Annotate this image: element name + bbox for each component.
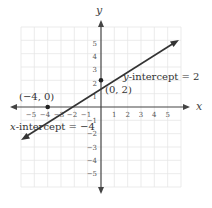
y-tick: 5: [93, 40, 97, 48]
y-tick: 3: [93, 66, 97, 74]
x-axis-right-arrow-icon: [183, 104, 190, 110]
x-tick: 4: [152, 111, 157, 119]
x-tick: −5: [26, 111, 36, 119]
y-tick-labels: 5 4 3 2 1 −1 −2 −3 −4 −5: [87, 40, 98, 178]
y-intercept-annotation: y-intercept = 2: [122, 71, 199, 82]
point-a-label: (−4, 0): [19, 91, 54, 102]
y-tick: −3: [87, 144, 97, 152]
x-tick: 5: [165, 111, 169, 119]
y-tick: −5: [87, 170, 97, 178]
x-tick: 2: [125, 111, 129, 119]
x-tick: 1: [112, 111, 116, 119]
y-axis-up-arrow-icon: [98, 20, 104, 27]
y-tick: −4: [87, 157, 98, 165]
x-axis-left-arrow-icon: [10, 104, 17, 110]
coordinate-plane: y x −5 −4 −3 −2 −1 1 2 3 4 5 5 4 3 2 1 −…: [0, 0, 212, 208]
y-axis-label: y: [95, 4, 103, 17]
point-b-label: (0, 2): [105, 84, 132, 95]
x-tick-labels: −5 −4 −3 −2 −1 1 2 3 4 5: [26, 111, 170, 119]
x-tick: −2: [67, 111, 77, 119]
line-upper-arrow-icon: [170, 40, 179, 47]
x-tick: 3: [139, 111, 143, 119]
point-y-intercept: [99, 78, 104, 83]
y-tick: 2: [93, 80, 97, 88]
x-intercept-annotation: x-intercept = −4: [10, 121, 95, 132]
axes: [10, 20, 190, 194]
y-axis-down-arrow-icon: [98, 187, 104, 194]
y-tick: 4: [93, 53, 98, 61]
point-x-intercept: [45, 105, 50, 110]
x-tick: −4: [40, 111, 51, 119]
x-axis-label: x: [196, 100, 203, 113]
